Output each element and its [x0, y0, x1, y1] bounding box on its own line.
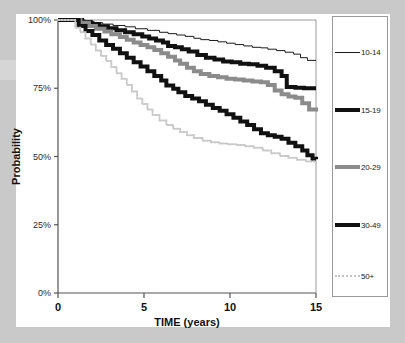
legend-label: 50+ [361, 272, 374, 281]
legend-label: 20-29 [361, 163, 380, 172]
legend-swatch-line-icon [335, 165, 360, 169]
y-tick-label: 25% [33, 220, 51, 230]
y-tick-label: 0% [38, 288, 51, 298]
x-tick-label: 10 [224, 301, 236, 313]
x-axis-title: TIME (years) [154, 316, 220, 328]
legend-label: 15-19 [361, 106, 380, 115]
legend-item-0[interactable]: 10-14 [333, 45, 389, 59]
axis-spines [58, 20, 316, 293]
legend-swatch-line-icon [335, 275, 360, 277]
legend-swatch-line-icon [335, 223, 360, 227]
legend-label: 10-14 [361, 48, 380, 57]
legend-item-1[interactable]: 15-19 [333, 103, 389, 117]
curves-layer [58, 20, 316, 163]
legend-swatch-line-icon [335, 108, 360, 112]
legend-item-2[interactable]: 20-29 [333, 160, 389, 174]
x-tick-label: 15 [310, 301, 322, 313]
y-tick-label: 75% [33, 83, 51, 93]
y-axis-title: Probability [10, 127, 22, 185]
legend-panel: 10-14 15-19 20-29 30-49 50+ [332, 16, 388, 297]
axis-labels-layer: 0%25%50%75%100%051015TIME (years)Probabi… [10, 15, 322, 328]
y-tick-label: 50% [33, 152, 51, 162]
legend-label: 30-49 [361, 221, 380, 230]
legend-item-3[interactable]: 30-49 [333, 218, 389, 232]
legend-item-4[interactable]: 50+ [333, 269, 389, 283]
plot-frame [58, 20, 316, 293]
y-tick-label: 100% [28, 15, 51, 25]
x-tick-label: 0 [55, 301, 61, 313]
figure-root: 0%25%50%75%100%051015TIME (years)Probabi… [0, 0, 405, 343]
x-tick-label: 5 [141, 301, 147, 313]
legend-swatch-line-icon [335, 52, 360, 53]
